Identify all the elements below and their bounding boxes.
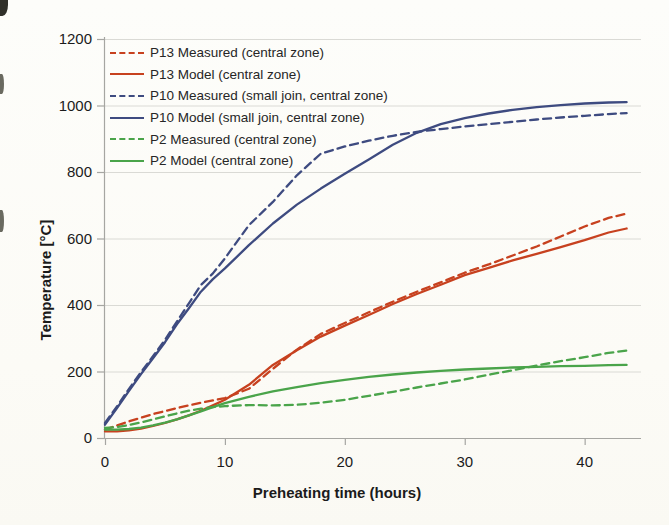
y-tick-label: 800: [67, 163, 92, 180]
scan-artifact: [0, 210, 4, 232]
legend-item-p10-measured: P10 Measured (small join, central zone): [110, 85, 388, 107]
x-tick-label: 30: [456, 453, 473, 470]
y-tick-label: 1000: [59, 97, 92, 114]
p2-model-line-sample: [110, 160, 144, 162]
y-axis-title: Temperature [°C]: [37, 220, 54, 341]
legend-item-p13-model: P13 Model (central zone): [110, 64, 388, 86]
legend-label: P2 Model (central zone): [150, 153, 293, 168]
legend-item-p10-model: P10 Model (small join, central zone): [110, 107, 388, 129]
x-tick-label: 10: [217, 453, 234, 470]
p13-measured-line-sample: [110, 52, 144, 54]
scan-artifact: [0, 74, 4, 94]
chart-legend: P13 Measured (central zone) P13 Model (c…: [110, 42, 388, 172]
y-tick-label: 600: [67, 230, 92, 247]
x-axis-title: Preheating time (hours): [253, 484, 421, 501]
y-tick-label: 400: [67, 296, 92, 313]
p10-model-line-sample: [110, 117, 144, 119]
p13-model-line-sample: [110, 73, 144, 75]
y-tick-label: 200: [67, 363, 92, 380]
x-tick-label: 20: [336, 453, 353, 470]
p10-measured-line-sample: [110, 95, 144, 97]
x-tick-label: 0: [101, 453, 109, 470]
legend-label: P2 Measured (central zone): [150, 132, 317, 147]
legend-item-p13-measured: P13 Measured (central zone): [110, 42, 388, 64]
y-tick-label: 1200: [59, 30, 92, 47]
legend-label: P10 Model (small join, central zone): [150, 110, 365, 125]
figure-page: 020040060080010001200010203040 Temperatu…: [0, 0, 669, 525]
legend-item-p2-model: P2 Model (central zone): [110, 150, 388, 172]
p2-measured-line-sample: [110, 138, 144, 140]
x-tick-label: 40: [576, 453, 593, 470]
legend-label: P13 Measured (central zone): [150, 45, 324, 60]
y-tick-label: 0: [84, 429, 92, 446]
legend-label: P13 Model (central zone): [150, 67, 301, 82]
legend-label: P10 Measured (small join, central zone): [150, 88, 388, 103]
legend-item-p2-measured: P2 Measured (central zone): [110, 128, 388, 150]
series-line-model: [105, 229, 627, 432]
